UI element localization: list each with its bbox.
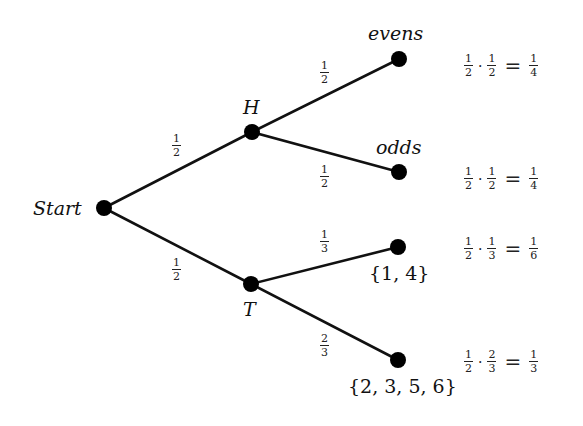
- calc-set2356: 12 · 23 = 13: [464, 349, 538, 374]
- label-evens: evens: [368, 24, 423, 43]
- node-start: [96, 200, 112, 216]
- calc-set14: 12 · 13 = 16: [464, 236, 538, 261]
- edge-prob-start-h: 12: [172, 133, 181, 158]
- node-evens: [391, 51, 407, 67]
- label-set14: {1, 4}: [369, 264, 429, 283]
- node-t: [243, 276, 259, 292]
- calc-evens: 12 · 12 = 14: [464, 53, 538, 78]
- edge-prob-t-set14: 13: [320, 229, 329, 254]
- calc-odds: 12 · 12 = 14: [464, 166, 538, 191]
- node-set14: [390, 239, 406, 255]
- label-odds: odds: [376, 138, 422, 157]
- label-h: H: [243, 98, 260, 117]
- label-t: T: [243, 300, 256, 319]
- label-start: Start: [33, 199, 82, 218]
- edge-prob-t-set2356: 23: [320, 333, 329, 358]
- edge-prob-h-evens: 12: [320, 60, 329, 85]
- node-set2356: [390, 352, 406, 368]
- label-set2356: {2, 3, 5, 6}: [348, 377, 457, 396]
- edge-prob-h-odds: 12: [320, 164, 329, 189]
- edge-prob-start-t: 12: [172, 257, 181, 282]
- node-h: [244, 124, 260, 140]
- node-odds: [391, 164, 407, 180]
